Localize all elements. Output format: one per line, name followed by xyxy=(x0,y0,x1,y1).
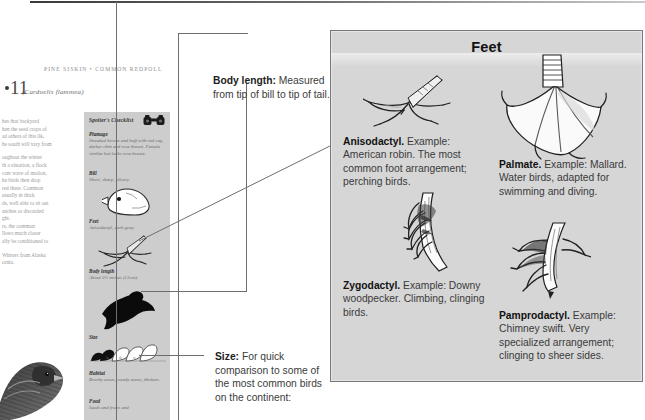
bird-head-illustration xyxy=(102,186,156,218)
feet-caption-pamprodactyl: Pamprodactyl. Example: Chimney swift. Ve… xyxy=(499,309,639,362)
species-latin-name: (Carduelis flammea) xyxy=(22,88,84,96)
checklist-heading-plumage: Plumage xyxy=(89,131,108,137)
feet-caption-zygodactyl-name: Zygodactyl. xyxy=(343,280,400,291)
figure-canvas: PINE SISKIN • COMMON REDPOLL 11 (Carduel… xyxy=(0,0,645,420)
checklist-heading-size: Size xyxy=(89,334,98,340)
feet-caption-palmate-name: Palmate. xyxy=(499,159,541,170)
checklist-heading-bill: Bill xyxy=(89,170,97,176)
checklist-text-feet: Anisodactyl, dark gray. xyxy=(89,225,167,231)
callout-body-length-label: Body length: xyxy=(213,75,276,86)
feet-caption-anisodactyl: Anisodactyl. Example: American robin. Th… xyxy=(343,135,491,188)
svg-text:rb: rb xyxy=(119,356,122,360)
checklist-text-bill: Short, sharp, silvery. xyxy=(89,177,167,183)
checklist-text-plumage: Streaked brown and buff with red cap, da… xyxy=(89,138,167,157)
species-bullet xyxy=(5,86,9,90)
feet-caption-zygodactyl: Zygodactyl. Example: Downy woodpecker. C… xyxy=(343,279,493,319)
binoculars-icon xyxy=(142,114,166,127)
bird-photo-art xyxy=(0,355,73,420)
frame-line-left xyxy=(178,33,179,420)
feet-caption-pamprodactyl-name: Pamprodactyl. xyxy=(499,310,570,321)
book-body-column: hes that backyard hen the seed crops of … xyxy=(2,118,76,273)
checklist-text-habitat: Brushy areas, weedy areas, thickets. xyxy=(89,377,167,383)
leader-line-body-length-horizontal xyxy=(141,291,247,292)
checklist-text-body-length: About 5¼ inches (13cm). xyxy=(89,275,167,281)
pamprodactyl-foot-icon xyxy=(507,219,591,303)
feet-caption-palmate: Palmate. Example: Mallard. Water birds, … xyxy=(499,158,639,198)
callout-body-length: Body length: Measured from tip of bill t… xyxy=(213,74,333,101)
leader-line-body-length-vertical xyxy=(246,83,247,292)
checklist-title: Spotter's Checklist xyxy=(89,117,133,123)
body-paragraph: Winters from Alaska ornia. xyxy=(2,252,76,267)
leader-line-size xyxy=(139,355,204,356)
checklist-heading-food: Food xyxy=(89,398,100,404)
palmate-foot-icon xyxy=(499,53,609,173)
spotters-checklist-panel: Spotter's Checklist Plumage Streaked bro… xyxy=(84,112,170,420)
svg-text:in: in xyxy=(106,356,109,360)
feet-panel: Feet A xyxy=(330,30,643,382)
frame-line-top xyxy=(178,33,248,34)
callout-size-label: Size: xyxy=(215,351,239,362)
body-paragraph: oughout the winter th a situation, a flo… xyxy=(2,154,76,245)
feet-caption-anisodactyl-name: Anisodactyl. xyxy=(343,136,404,147)
checklist-heading-feet: Feet xyxy=(89,218,98,224)
page-top-rule xyxy=(30,1,645,3)
zygodactyl-foot-icon xyxy=(389,191,459,275)
leader-line-vertical-main xyxy=(116,2,117,420)
checklist-foot-illustration xyxy=(94,234,156,268)
body-paragraph: hes that backyard hen the seed crops of … xyxy=(2,118,76,148)
running-head: PINE SISKIN • COMMON REDPOLL xyxy=(44,66,178,72)
anisodactyl-foot-icon xyxy=(363,73,453,131)
checklist-heading-habitat: Habitat xyxy=(89,370,105,376)
checklist-text-food: Seeds and fruits and xyxy=(89,405,167,411)
bird-photograph xyxy=(0,355,73,420)
checklist-heading-body-length: Body length xyxy=(89,268,114,274)
callout-size: Size: For quick comparison to some of th… xyxy=(215,350,327,404)
